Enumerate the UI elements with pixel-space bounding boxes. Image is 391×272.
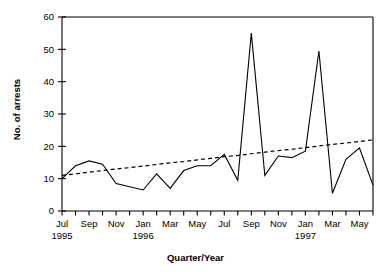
x-tick-label: Nov xyxy=(108,218,125,229)
y-tick-label: 0 xyxy=(49,205,54,216)
x-year-label: 1995 xyxy=(51,230,72,241)
x-tick-label: Jan xyxy=(298,218,313,229)
x-tick-label: Sep xyxy=(81,218,98,229)
x-tick-label: Nov xyxy=(270,218,287,229)
x-tick-label: May xyxy=(351,218,369,229)
y-tick-label: 20 xyxy=(43,141,54,152)
chart-canvas: JulSepNovJanMarMayJulSepNovJanMarMay 010… xyxy=(0,0,391,272)
x-tick-label: Jan xyxy=(135,218,150,229)
x-axis-tick-labels: JulSepNovJanMarMayJulSepNovJanMarMay xyxy=(56,218,369,229)
y-tick-label: 50 xyxy=(43,44,54,55)
y-tick-label: 40 xyxy=(43,76,54,87)
trend-line-series xyxy=(62,140,373,176)
x-tick-label: Sep xyxy=(243,218,260,229)
x-tick-label: Mar xyxy=(162,218,178,229)
x-tick-label: Mar xyxy=(324,218,340,229)
y-axis-title: No. of arrests xyxy=(11,50,22,170)
x-tick-label: Jul xyxy=(56,218,68,229)
y-tick-label: 60 xyxy=(43,11,54,22)
data-series xyxy=(62,33,373,193)
x-year-label: 1997 xyxy=(295,230,316,241)
x-axis-title: Quarter/Year xyxy=(0,252,391,263)
x-tick-label: Jul xyxy=(218,218,230,229)
data-line-series xyxy=(62,33,373,193)
y-axis-tick-labels: 0102030405060 xyxy=(43,11,54,216)
y-tick-label: 10 xyxy=(43,173,54,184)
x-tick-label: May xyxy=(188,218,206,229)
x-axis-ticks xyxy=(62,211,373,216)
x-year-label: 1996 xyxy=(133,230,154,241)
arrests-line-chart: No. of arrests Quarter/Year JulSepNovJan… xyxy=(0,0,391,272)
y-tick-label: 30 xyxy=(43,108,54,119)
x-axis-year-labels: 199519961997 xyxy=(51,230,316,241)
axis-lines xyxy=(62,17,373,211)
